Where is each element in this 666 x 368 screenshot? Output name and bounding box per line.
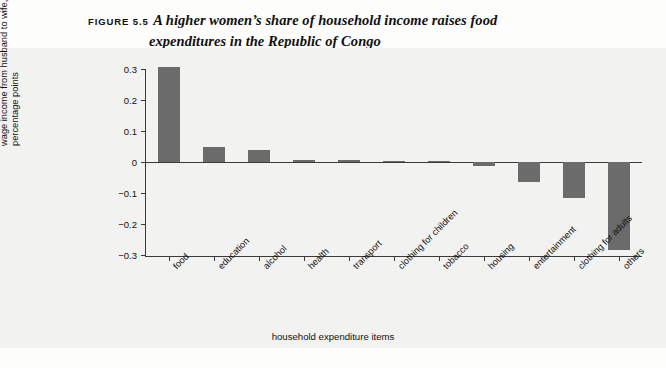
x-tick-mark: [394, 257, 395, 261]
bar: [518, 162, 540, 182]
bar-slot: [236, 48, 281, 257]
x-tick-mark: [304, 257, 305, 261]
figure-title-line-2: expenditures in the Republic of Congo: [149, 33, 381, 49]
caption-line-1: FIGURE 5.5 A higher women’s share of hou…: [88, 10, 588, 31]
bar: [428, 161, 450, 162]
bar-slot: [371, 48, 416, 257]
figure-number-label: FIGURE 5.5: [88, 16, 149, 27]
bar-slot: [507, 48, 552, 257]
bar: [158, 67, 180, 162]
figure-caption: FIGURE 5.5 A higher women’s share of hou…: [88, 10, 588, 51]
x-tick-mark: [619, 257, 620, 261]
bar: [473, 162, 495, 166]
figure-title-line-1: A higher women’s share of household inco…: [153, 12, 497, 28]
x-tick-mark: [169, 257, 170, 261]
x-axis-title: household expenditure items: [0, 331, 666, 342]
y-tick-label: 0.1: [0, 126, 144, 137]
x-tick-mark: [529, 257, 530, 261]
bar: [563, 162, 585, 198]
x-tick-mark: [574, 257, 575, 261]
x-tick-mark: [349, 257, 350, 261]
y-tick-label: 0.3: [0, 64, 144, 75]
bar: [383, 161, 405, 162]
bar-slot: [462, 48, 507, 257]
bar-slot: [552, 48, 597, 257]
bar-slot: [191, 48, 236, 257]
figure-page: FIGURE 5.5 A higher women’s share of hou…: [0, 0, 666, 368]
y-tick-label: −0.2: [0, 219, 144, 230]
x-tick-mark: [484, 257, 485, 261]
x-tick-mark: [259, 257, 260, 261]
y-tick-label: 0: [0, 157, 144, 168]
x-tick-mark: [439, 257, 440, 261]
chart-panel: impact of a 10 percent redistribution of…: [0, 48, 666, 348]
y-tick-label: −0.1: [0, 188, 144, 199]
bar: [248, 150, 270, 162]
bar: [338, 160, 360, 162]
bar-series: [146, 48, 641, 257]
bar-slot: [326, 48, 371, 257]
x-tick-mark: [214, 257, 215, 261]
bar: [293, 160, 315, 162]
bar-slot: [281, 48, 326, 257]
y-tick-label: −0.3: [0, 250, 144, 261]
bar: [203, 147, 225, 162]
bar-slot: [146, 48, 191, 257]
y-tick-label: 0.2: [0, 95, 144, 106]
